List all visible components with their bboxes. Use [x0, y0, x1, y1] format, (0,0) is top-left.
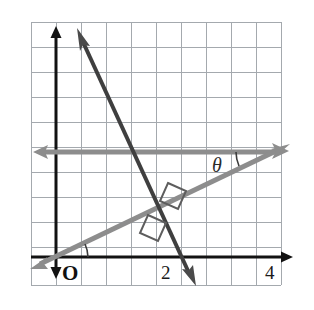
- origin-label: O: [62, 261, 78, 285]
- x-tick-label-2: 2: [161, 262, 171, 283]
- angle-theta-label: θ: [212, 154, 222, 176]
- coordinate-grid-figure: θ O 2 4: [0, 0, 314, 310]
- x-tick-label-4: 4: [265, 262, 275, 283]
- figure-container: θ O 2 4: [0, 0, 314, 310]
